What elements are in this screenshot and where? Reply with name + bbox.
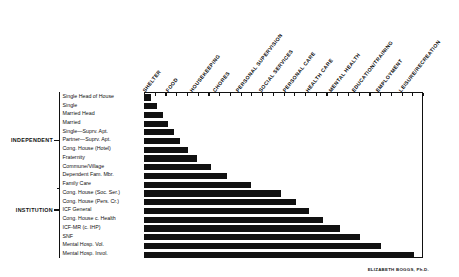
bracket-divider-tick bbox=[57, 188, 60, 189]
bar bbox=[144, 121, 168, 127]
bar bbox=[144, 208, 309, 214]
bar bbox=[144, 138, 180, 144]
axis-tick bbox=[165, 93, 166, 96]
axis-tick bbox=[262, 93, 263, 96]
bar bbox=[144, 252, 414, 258]
bar bbox=[144, 190, 281, 196]
bar bbox=[144, 199, 296, 205]
axis-tick bbox=[230, 93, 231, 96]
bar bbox=[144, 164, 211, 170]
axis-tick bbox=[380, 93, 381, 96]
bar bbox=[144, 147, 188, 153]
axis-tick bbox=[155, 93, 156, 96]
column-header-chores: CHORES bbox=[211, 70, 231, 93]
axis-tick bbox=[348, 93, 349, 96]
row-label-list: Single Head of HouseSingleMarried HeadMa… bbox=[59, 92, 142, 258]
group-label-independent: INDEPENDENT bbox=[11, 137, 53, 143]
column-header-shelter: SHELTER bbox=[141, 69, 162, 93]
axis-tick bbox=[337, 93, 338, 96]
axis-tick bbox=[176, 93, 177, 96]
column-header-food: FOOD bbox=[165, 76, 180, 93]
bar bbox=[144, 155, 197, 161]
column-header-leisure-recreation: LEISURE/RECREATION bbox=[397, 39, 441, 93]
axis-tick bbox=[208, 93, 209, 96]
axis-tick bbox=[423, 93, 424, 96]
axis-tick bbox=[198, 93, 199, 96]
axis-tick bbox=[316, 93, 317, 96]
bar bbox=[144, 129, 174, 135]
bar bbox=[144, 182, 251, 188]
bar bbox=[144, 234, 360, 240]
bar bbox=[144, 173, 227, 179]
bar bbox=[144, 225, 340, 231]
column-headers: SHELTERFOODHOUSEKEEPINGCHORESPERSONAL SU… bbox=[0, 0, 459, 96]
axis-tick bbox=[369, 93, 370, 96]
bar bbox=[144, 217, 323, 223]
axis-tick bbox=[187, 93, 188, 96]
axis-tick bbox=[251, 93, 252, 96]
axis-tick bbox=[284, 93, 285, 96]
axis-tick bbox=[305, 93, 306, 96]
bar bbox=[144, 94, 151, 100]
continuum-chart-figure: SHELTERFOODHOUSEKEEPINGCHORESPERSONAL SU… bbox=[0, 0, 459, 277]
axis-tick bbox=[412, 93, 413, 96]
axis-tick bbox=[294, 93, 295, 96]
axis-tick bbox=[391, 93, 392, 96]
axis-tick bbox=[402, 93, 403, 96]
credit-line: ELIZABETH BOGGS, Ph.D. bbox=[368, 267, 429, 272]
row-label: Mental Hosp. Invol. bbox=[63, 248, 108, 258]
bar bbox=[144, 243, 381, 249]
axis-tick bbox=[326, 93, 327, 96]
axis-tick bbox=[241, 93, 242, 96]
bar bbox=[144, 103, 157, 109]
axis-tick bbox=[273, 93, 274, 96]
axis-tick bbox=[219, 93, 220, 96]
group-label-institution: INSTITUTION bbox=[16, 207, 53, 213]
plot-area bbox=[144, 92, 423, 258]
bar bbox=[144, 112, 163, 118]
column-header-education-training: EDUCATION/TRAINING bbox=[351, 39, 395, 93]
axis-tick bbox=[359, 93, 360, 96]
column-header-personal-supervision: PERSONAL SUPERVISION bbox=[234, 32, 283, 93]
